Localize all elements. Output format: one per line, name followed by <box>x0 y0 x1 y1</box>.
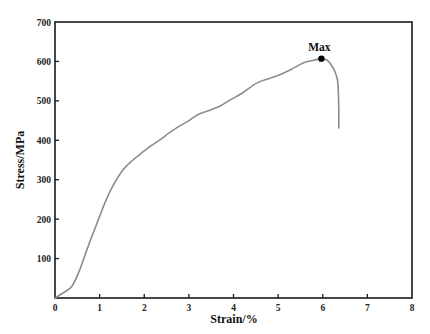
max-annotation: Max <box>308 41 331 62</box>
y-tick-label: 600 <box>37 57 52 67</box>
y-tick-label: 400 <box>37 136 52 146</box>
stress-strain-chart: 012345678100200300400500600700 Max Strai… <box>0 0 430 334</box>
x-tick-label: 0 <box>53 303 58 313</box>
x-tick-label: 6 <box>320 303 325 313</box>
curve-path <box>55 59 339 298</box>
x-tick-label: 8 <box>410 303 415 313</box>
x-tick-label: 3 <box>187 303 192 313</box>
x-tick-label: 7 <box>365 303 370 313</box>
max-point-marker <box>318 55 324 61</box>
stress-strain-curve <box>55 59 339 298</box>
y-tick-label: 500 <box>37 96 52 106</box>
y-tick-label: 300 <box>37 175 52 185</box>
x-axis-title: Strain/% <box>210 312 257 326</box>
x-tick-label: 5 <box>276 303 281 313</box>
x-tick-label: 2 <box>142 303 147 313</box>
y-tick-label: 700 <box>37 18 52 28</box>
plot-frame <box>55 22 412 298</box>
y-tick-label: 200 <box>37 215 52 225</box>
x-tick-label: 1 <box>97 303 102 313</box>
max-label: Max <box>308 41 331 53</box>
y-axis-title: Stress/MPa <box>13 131 27 189</box>
plot-border <box>55 22 412 298</box>
axis-ticks: 012345678100200300400500600700 <box>37 18 415 314</box>
y-tick-label: 100 <box>37 254 52 264</box>
